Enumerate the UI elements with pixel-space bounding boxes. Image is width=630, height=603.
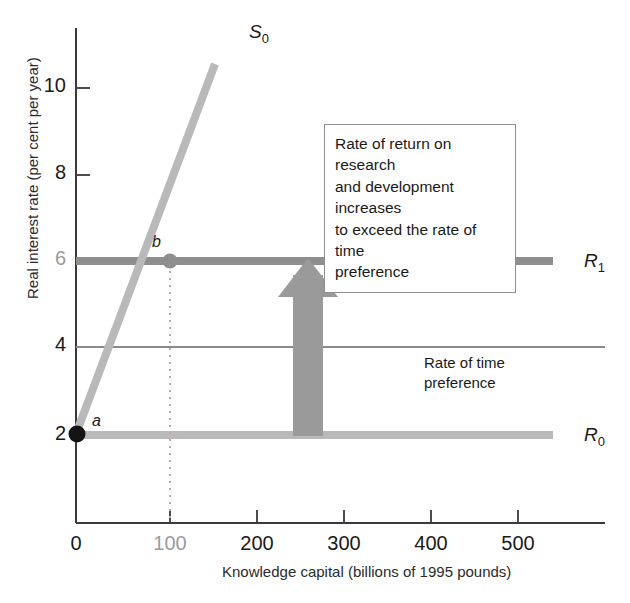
x-tick-marks: [170, 510, 518, 523]
callout-line-4: preference: [335, 261, 505, 282]
s0-label-sub: 0: [262, 31, 269, 46]
y-tick-label-4: 4: [26, 333, 66, 356]
x-tick-label-300: 300: [314, 532, 374, 555]
y-axis-title: Real interest rate (per cent per year): [24, 57, 41, 299]
callout-line-1: Rate of return on research: [335, 133, 505, 176]
x-tick-label-100: 100: [140, 532, 200, 555]
x-tick-label-500: 500: [488, 532, 548, 555]
point-b-marker: [163, 254, 178, 269]
r0-label-sub: 0: [598, 434, 605, 449]
rtp-line-1: Rate of time: [424, 353, 505, 373]
r0-curve-label: R0: [584, 424, 605, 449]
r1-label-text: R: [584, 250, 598, 271]
rate-of-time-preference-label: Rate of time preference: [424, 353, 505, 394]
chart-figure: 10 8 6 4 2 0 100 200 300 400 500 Knowled…: [0, 0, 630, 603]
x-axis-title: Knowledge capital (billions of 1995 poun…: [222, 563, 511, 580]
chart-canvas: [0, 0, 630, 603]
r1-label-sub: 1: [598, 260, 605, 275]
r0-label-text: R: [584, 424, 598, 445]
s0-curve-label: S0: [249, 21, 269, 46]
x-tick-label-400: 400: [401, 532, 461, 555]
point-a-marker: [69, 426, 86, 443]
x-tick-label-200: 200: [227, 532, 287, 555]
callout-box: Rate of return on research and developme…: [324, 124, 516, 293]
callout-line-3: to exceed the rate of time: [335, 219, 505, 262]
rtp-line-2: preference: [424, 373, 505, 393]
y-tick-label-2: 2: [26, 422, 66, 445]
r1-curve-label: R1: [584, 250, 605, 275]
s0-label-text: S: [249, 21, 262, 42]
point-label-b: b: [152, 233, 161, 251]
s0-curve: [76, 64, 215, 434]
callout-line-2: and development increases: [335, 176, 505, 219]
point-label-a: a: [92, 412, 101, 430]
x-tick-label-0: 0: [46, 532, 106, 555]
